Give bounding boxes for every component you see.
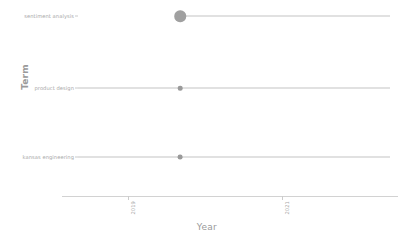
x-tick-mark [282,196,283,200]
y-tick-label: product design [6,85,74,91]
row-line [78,157,390,158]
data-point-marker[interactable] [175,10,187,22]
x-tick-label: 2021 [284,201,290,215]
row-line [78,88,390,89]
data-point-marker[interactable] [178,86,183,91]
chart-container: Term sentiment analysis product design k… [0,0,414,244]
row-line [180,16,390,17]
data-point-marker[interactable] [178,155,183,160]
x-axis-title: Year [0,222,414,232]
plot-area [78,0,390,196]
y-tick-label: kansas engineering [6,154,74,160]
x-tick-label: 2019 [130,201,136,215]
y-axis-title: Term [20,53,30,101]
x-axis-line [62,196,398,197]
x-tick-mark [128,196,129,200]
y-tick-label: sentiment analysis [6,13,74,19]
